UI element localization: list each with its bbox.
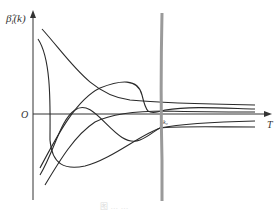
- y-axis-label: β̂i(k): [5, 12, 26, 26]
- figure-caption: 图 … …: [100, 202, 128, 211]
- k0-label: k₀: [163, 119, 168, 125]
- curve-1: [42, 29, 255, 105]
- convergence-diagram: β̂i(k) O T k₀ 图 … …: [0, 0, 279, 211]
- curve-3: [40, 82, 255, 168]
- k0-divider-line: [161, 13, 162, 201]
- curve-5: [40, 107, 255, 175]
- x-axis-arrow-icon: [264, 111, 272, 117]
- origin-label: O: [21, 109, 28, 120]
- x-axis-label: T: [267, 119, 274, 130]
- y-axis-arrow-icon: [30, 10, 36, 18]
- curve-2: [38, 39, 255, 167]
